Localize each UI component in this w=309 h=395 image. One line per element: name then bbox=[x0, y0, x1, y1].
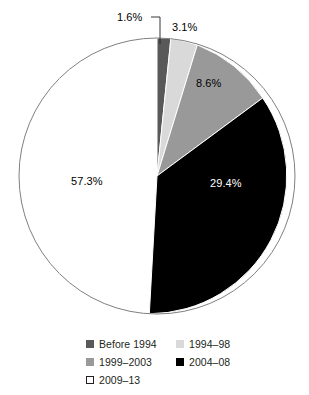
pie-label-2009-13: 57.3% bbox=[71, 176, 103, 187]
legend-label: 2004–08 bbox=[189, 357, 230, 368]
legend-label: 1999–2003 bbox=[99, 357, 152, 368]
legend-label: 1994–98 bbox=[189, 339, 230, 350]
filled-square-icon bbox=[176, 340, 184, 348]
filled-square-icon bbox=[86, 340, 94, 348]
chart-legend: Before 1994 1994–98 1999–2003 2004–08 20… bbox=[86, 336, 266, 390]
outlined-square-icon bbox=[86, 376, 94, 384]
legend-label: Before 1994 bbox=[99, 339, 157, 350]
pie-label-before-1994: 1.6% bbox=[117, 12, 142, 23]
pie-label-1994-98: 3.1% bbox=[172, 22, 197, 33]
legend-item-2004-08[interactable]: 2004–08 bbox=[176, 357, 230, 368]
legend-row: 1999–2003 2004–08 bbox=[86, 354, 266, 370]
legend-item-1999-2003[interactable]: 1999–2003 bbox=[86, 357, 176, 368]
legend-label: 2009–13 bbox=[99, 375, 140, 386]
pie-label-2004-08: 29.4% bbox=[210, 178, 242, 189]
filled-square-icon bbox=[86, 358, 94, 366]
filled-square-icon bbox=[176, 358, 184, 366]
pie-label-1999-2003: 8.6% bbox=[196, 78, 221, 89]
pie-chart-figure: 1.6% 3.1% 8.6% 29.4% 57.3% Before 1994 1… bbox=[0, 0, 309, 395]
legend-item-before-1994[interactable]: Before 1994 bbox=[86, 339, 176, 350]
legend-row: Before 1994 1994–98 bbox=[86, 336, 266, 352]
legend-item-2009-13[interactable]: 2009–13 bbox=[86, 375, 176, 386]
legend-item-1994-98[interactable]: 1994–98 bbox=[176, 339, 230, 350]
legend-row: 2009–13 bbox=[86, 372, 266, 388]
